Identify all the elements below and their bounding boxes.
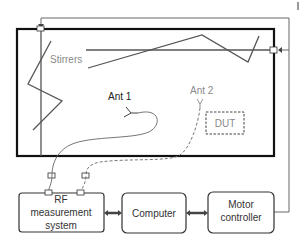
chamber-wall — [17, 29, 274, 156]
ant2-cable — [80, 108, 200, 195]
ant1-cable — [48, 112, 157, 195]
ant1-icon — [124, 107, 138, 117]
rf-computer-link-arrow — [104, 210, 122, 216]
rf-block-line-2: measurement — [30, 207, 91, 218]
stirrers-label: Stirrers — [50, 54, 82, 65]
motor-block-line-2: controller — [220, 212, 262, 223]
reverberation-chamber-diagram: Stirrers Ant 1 Ant 2 DUT RF measurement … — [0, 0, 304, 246]
computer-motor-link-arrow — [186, 210, 208, 216]
dut-label: DUT — [215, 118, 236, 129]
rf-block-line-3: system — [45, 220, 77, 231]
rf-block-line-1: RF — [54, 194, 67, 205]
control-loop-line — [41, 18, 289, 212]
motor-block-line-1: Motor — [228, 199, 254, 210]
ant2-icon — [197, 99, 203, 108]
ant2-label: Ant 2 — [190, 85, 214, 96]
feedthrough-top — [37, 26, 44, 31]
ant1-label: Ant 1 — [108, 91, 132, 102]
feedthrough-right — [270, 47, 277, 53]
rf-port-2 — [77, 190, 84, 195]
horizontal-stirrer-blade — [88, 35, 259, 68]
computer-label: Computer — [132, 208, 177, 219]
rf-port-1 — [45, 190, 52, 195]
arrow-to-horizontal-stirrer — [278, 47, 282, 53]
